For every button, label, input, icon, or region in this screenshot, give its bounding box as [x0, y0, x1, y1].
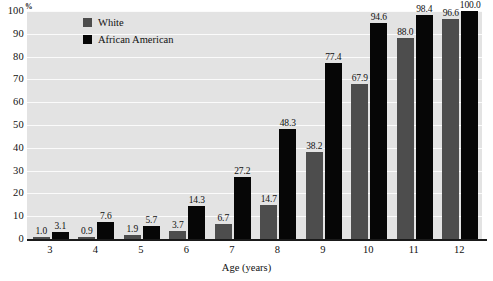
- bar-value-label: 67.9: [350, 74, 370, 83]
- legend: WhiteAfrican American: [83, 15, 174, 49]
- legend-swatch-icon: [83, 18, 92, 27]
- bar-value-label: 1.0: [31, 227, 51, 236]
- bar-value-label: 96.6: [441, 9, 461, 18]
- y-axis-tick-label: 0: [0, 234, 24, 244]
- bar-value-label: 94.6: [369, 13, 389, 22]
- bar: [97, 222, 114, 239]
- y-axis-tick-label: 60: [0, 97, 24, 107]
- bar: [461, 11, 478, 239]
- bar-value-label: 1.9: [122, 225, 142, 234]
- bar-value-label: 38.2: [304, 142, 324, 151]
- bar-value-label: 3.7: [168, 221, 188, 230]
- bar: [52, 232, 69, 239]
- y-axis: 0102030405060708090100: [0, 0, 24, 245]
- bar-value-label: 3.1: [50, 222, 70, 231]
- y-axis-unit-label: %: [25, 3, 33, 11]
- bar: [143, 226, 160, 239]
- bar-group: 67.994.6: [351, 11, 387, 239]
- bar: [370, 23, 387, 239]
- bar: [397, 38, 414, 239]
- bar: [234, 177, 251, 239]
- bar: [442, 19, 459, 239]
- y-axis-tick-label: 50: [0, 120, 24, 130]
- bar-value-label: 6.7: [213, 214, 233, 223]
- bar-group: 96.6100.0: [442, 11, 478, 239]
- y-axis-tick-label: 40: [0, 143, 24, 153]
- x-axis-tick-label: 11: [391, 244, 437, 256]
- x-axis-tick-label: 9: [300, 244, 346, 256]
- bar-value-label: 0.9: [77, 227, 97, 236]
- x-axis-title: Age (years): [0, 262, 493, 274]
- bar: [416, 15, 433, 239]
- y-axis-tick-label: 70: [0, 74, 24, 84]
- bar-value-label: 98.4: [414, 5, 434, 14]
- bar: [306, 152, 323, 239]
- x-axis-tick-label: 3: [27, 244, 73, 256]
- bar-value-label: 48.3: [278, 119, 298, 128]
- bar: [279, 129, 296, 239]
- legend-label: White: [98, 17, 124, 28]
- bar-value-label: 77.4: [323, 53, 343, 62]
- bar: [169, 231, 186, 239]
- x-axis: 3456789101112: [27, 244, 482, 260]
- bar-value-label: 5.7: [141, 216, 161, 225]
- x-axis-tick-label: 12: [437, 244, 483, 256]
- bar-value-label: 88.0: [395, 28, 415, 37]
- y-axis-tick-label: 30: [0, 166, 24, 176]
- legend-item: White: [83, 15, 174, 29]
- bar-value-label: 100.0: [460, 1, 480, 10]
- bar-group: 38.277.4: [306, 11, 342, 239]
- legend-label: African American: [98, 34, 174, 45]
- bar-value-label: 14.7: [259, 195, 279, 204]
- bar: [325, 63, 342, 239]
- x-axis-tick-label: 7: [209, 244, 255, 256]
- x-axis-tick-label: 4: [73, 244, 119, 256]
- x-axis-tick-label: 6: [164, 244, 210, 256]
- bar: [188, 206, 205, 239]
- y-axis-tick-label: 100: [0, 6, 24, 16]
- legend-item: African American: [83, 32, 174, 46]
- bar-group: 14.748.3: [260, 11, 296, 239]
- y-axis-tick-label: 80: [0, 52, 24, 62]
- bar: [215, 224, 232, 239]
- y-axis-tick-label: 20: [0, 188, 24, 198]
- bar: [260, 205, 277, 239]
- bar-group: 1.03.1: [33, 11, 69, 239]
- y-axis-tick-label: 90: [0, 29, 24, 39]
- bar-group: 88.098.4: [397, 11, 433, 239]
- bar-value-label: 27.2: [232, 167, 252, 176]
- bar-group: 3.714.3: [169, 11, 205, 239]
- bar-group: 6.727.2: [215, 11, 251, 239]
- bar-value-label: 14.3: [187, 196, 207, 205]
- x-axis-tick-label: 8: [255, 244, 301, 256]
- y-axis-tick-label: 10: [0, 211, 24, 221]
- x-axis-line: [27, 239, 487, 241]
- bar-value-label: 7.6: [96, 212, 116, 221]
- legend-swatch-icon: [83, 35, 92, 44]
- x-axis-tick-label: 5: [118, 244, 164, 256]
- bar: [351, 84, 368, 239]
- bar-chart: % 0102030405060708090100 1.03.10.97.61.9…: [0, 0, 493, 281]
- x-axis-tick-label: 10: [346, 244, 392, 256]
